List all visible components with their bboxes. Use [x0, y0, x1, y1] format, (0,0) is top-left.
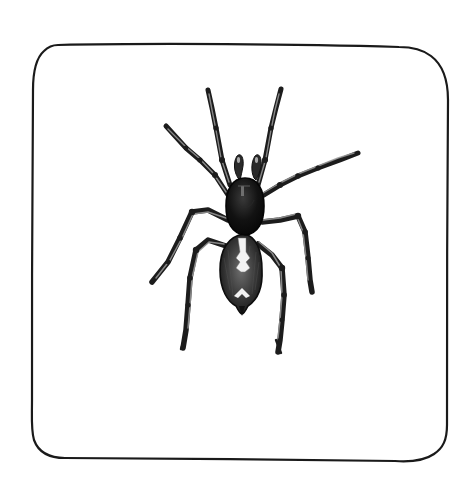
- leg-right-2: [262, 153, 358, 196]
- leg-right-1: [258, 89, 281, 185]
- spider-cephalothorax: [226, 178, 264, 235]
- leg-right-4: [258, 242, 287, 353]
- spider-abdomen: [220, 234, 262, 316]
- spider-illustration: [0, 0, 476, 499]
- leg-left-4: [181, 240, 226, 349]
- illustration-canvas: [0, 0, 476, 499]
- spider-pedipalps: [234, 155, 261, 180]
